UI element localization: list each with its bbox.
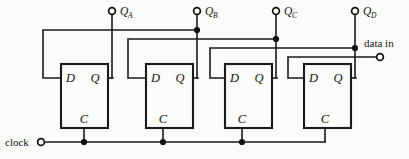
qd-subscript-label: D — [370, 11, 377, 20]
ff-a-c-label: C — [80, 112, 89, 126]
terminal-qd[interactable] — [352, 8, 359, 15]
terminal-clock[interactable] — [38, 139, 45, 146]
ff-d-d-label: D — [308, 71, 318, 85]
output-label-qc: Q C — [284, 5, 298, 20]
junction-clock-a — [81, 139, 87, 145]
output-label-qa: Q A — [120, 5, 133, 20]
qb-subscript-label: B — [213, 11, 218, 20]
ff-c-q-label: Q — [254, 71, 263, 85]
output-label-qd: Q D — [363, 5, 377, 20]
terminal-qc[interactable] — [273, 8, 280, 15]
terminal-qb[interactable] — [194, 8, 201, 15]
data-in-label: data in — [364, 37, 394, 49]
junction-clock-c — [239, 139, 245, 145]
ff-b-q-label: Q — [175, 71, 184, 85]
ff-c-d-label: D — [229, 71, 239, 85]
flipflop-boxes — [61, 64, 351, 128]
ff-d-q-label: Q — [333, 71, 342, 85]
ff-d-c-label: C — [321, 112, 330, 126]
junction-qd — [352, 45, 358, 51]
qa-subscript-label: A — [127, 11, 133, 20]
terminal-qa[interactable] — [109, 8, 116, 15]
junction-qb — [194, 27, 200, 33]
ff-b-d-label: D — [150, 71, 160, 85]
ff-c-c-label: C — [238, 112, 247, 126]
clock-bus — [46, 128, 325, 142]
clock-label: clock — [5, 136, 29, 148]
ff-a-q-label: Q — [90, 71, 99, 85]
terminal-data-in[interactable] — [377, 54, 384, 61]
shift-register-figure: D Q C D Q C D Q C D Q C — [0, 0, 409, 159]
output-label-qb: Q B — [205, 5, 218, 20]
circuit-diagram: D Q C D Q C D Q C D Q C — [0, 0, 409, 159]
qc-subscript-label: C — [292, 11, 298, 20]
junction-clock-b — [160, 139, 166, 145]
ff-a-d-label: D — [65, 71, 75, 85]
ff-b-c-label: C — [159, 112, 168, 126]
junction-qc — [273, 36, 279, 42]
